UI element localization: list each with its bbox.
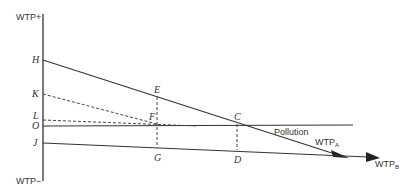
- k-dashed-line: [43, 94, 157, 124]
- wtp-b-label-main: WTP: [375, 159, 395, 169]
- axis-bottom-label: WTP−: [16, 176, 41, 186]
- point-h-label: H: [32, 55, 39, 65]
- wtp-a-arrowhead: [331, 150, 349, 158]
- wtp-b-label-sub: B: [395, 164, 399, 170]
- pollution-label: Pollution: [274, 127, 309, 137]
- l-dashed-line: [43, 120, 198, 126]
- point-k-label: K: [32, 89, 39, 99]
- point-f-label: F: [149, 112, 155, 122]
- wtp-b-label: WTPB: [375, 159, 399, 172]
- wtp-a-label-sub: A: [335, 142, 339, 148]
- wtp-a-line: [43, 60, 338, 155]
- point-o-label: O: [32, 121, 39, 131]
- point-e-label: E: [154, 85, 160, 95]
- diagram-canvas: [0, 0, 409, 193]
- point-j-label: J: [33, 138, 37, 148]
- axis-top-label: WTP+: [16, 12, 41, 22]
- point-g-label: G: [154, 153, 161, 163]
- wtp-a-label-main: WTP: [315, 137, 335, 147]
- point-c-label: C: [234, 112, 241, 122]
- wtp-a-label: WTPA: [315, 137, 339, 150]
- point-d-label: D: [234, 155, 241, 165]
